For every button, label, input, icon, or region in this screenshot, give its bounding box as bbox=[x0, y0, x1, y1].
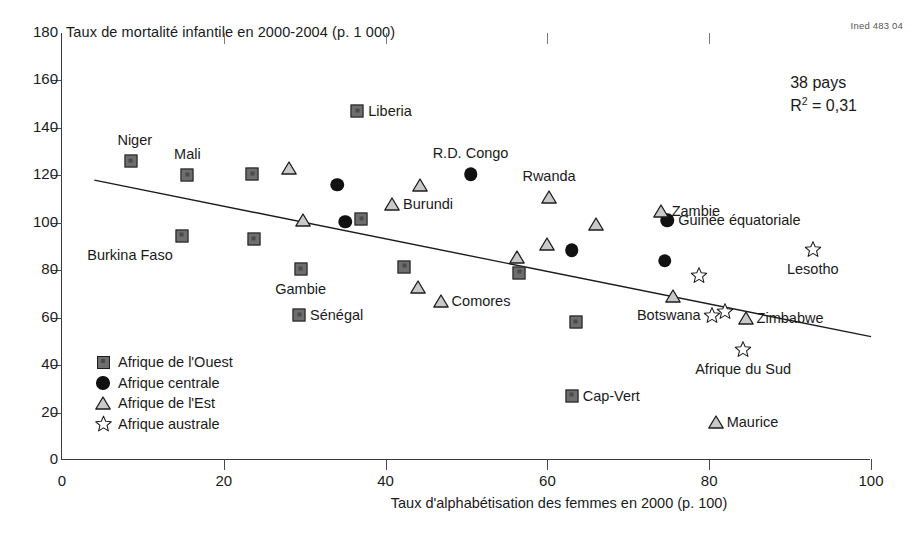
star-marker bbox=[735, 340, 752, 357]
triangle-marker bbox=[384, 197, 400, 211]
triangle-marker bbox=[738, 311, 754, 325]
x-axis-title: Taux d'alphabétisation des femmes en 200… bbox=[0, 495, 913, 511]
y-tick-label: 40 bbox=[41, 355, 58, 372]
circle-marker bbox=[96, 376, 110, 390]
point-label: Rwanda bbox=[522, 168, 575, 184]
source-credit: Ined 483 04 bbox=[851, 20, 903, 31]
circle-marker bbox=[464, 167, 478, 181]
legend-label: Afrique de l'Ouest bbox=[118, 352, 233, 373]
square-marker bbox=[247, 233, 260, 246]
y-tick-label: 120 bbox=[33, 165, 58, 182]
x-tick-label: 40 bbox=[377, 472, 394, 489]
legend-label: Afrique australe bbox=[118, 414, 220, 435]
circle-marker bbox=[92, 376, 114, 390]
square-marker bbox=[293, 309, 306, 322]
x-tick-label: 80 bbox=[701, 472, 718, 489]
circle-marker bbox=[658, 254, 672, 268]
point-label: Maurice bbox=[727, 414, 779, 430]
point-label: R.D. Congo bbox=[433, 145, 509, 161]
x-tick-label: 60 bbox=[539, 472, 556, 489]
y-tick-label: 100 bbox=[33, 213, 58, 230]
chart-legend: Afrique de l'OuestAfrique centraleAfriqu… bbox=[92, 352, 233, 434]
triangle-marker bbox=[92, 396, 114, 410]
point-label: Gambie bbox=[275, 281, 326, 297]
triangle-marker bbox=[412, 178, 428, 192]
x-tick-mark bbox=[224, 459, 225, 470]
x-tick-label: 100 bbox=[858, 472, 883, 489]
point-label: Cap-Vert bbox=[583, 388, 640, 404]
triangle-marker bbox=[588, 217, 604, 231]
y-tick-label: 140 bbox=[33, 118, 58, 135]
triangle-marker bbox=[539, 237, 555, 251]
legend-item[interactable]: Afrique australe bbox=[92, 414, 233, 435]
point-label: Niger bbox=[117, 132, 152, 148]
square-marker bbox=[97, 356, 110, 369]
y-tick-label: 20 bbox=[41, 403, 58, 420]
chart-figure: Taux de mortalité infantile en 2000-2004… bbox=[0, 0, 913, 534]
point-label: Botswana bbox=[637, 307, 701, 323]
star-marker bbox=[804, 240, 821, 257]
legend-item[interactable]: Afrique de l'Est bbox=[92, 393, 233, 414]
x-tick-mark bbox=[386, 459, 387, 470]
square-marker bbox=[398, 260, 411, 273]
point-label: Lesotho bbox=[787, 261, 839, 277]
x-tick-mark bbox=[871, 459, 872, 470]
circle-marker bbox=[338, 215, 352, 229]
point-label: Burkina Faso bbox=[87, 247, 172, 263]
point-label: Mali bbox=[174, 146, 201, 162]
point-label: Liberia bbox=[368, 103, 412, 119]
legend-label: Afrique de l'Est bbox=[118, 393, 215, 414]
triangle-marker bbox=[509, 250, 525, 264]
y-tick-label: 80 bbox=[41, 260, 58, 277]
point-label: Burundi bbox=[403, 196, 453, 212]
triangle-marker bbox=[295, 213, 311, 227]
star-marker bbox=[716, 302, 733, 319]
triangle-marker bbox=[281, 161, 297, 175]
square-marker bbox=[513, 266, 526, 279]
square-marker bbox=[181, 169, 194, 182]
star-marker bbox=[691, 266, 708, 283]
triangle-marker bbox=[541, 190, 557, 204]
triangle-marker bbox=[653, 204, 669, 218]
square-marker bbox=[124, 155, 137, 168]
x-tick-mark bbox=[709, 459, 710, 470]
square-marker bbox=[351, 105, 364, 118]
legend-label: Afrique centrale bbox=[118, 373, 220, 394]
square-marker bbox=[565, 389, 578, 402]
x-tick-label: 0 bbox=[58, 472, 66, 489]
square-marker bbox=[92, 356, 114, 369]
point-label: Comores bbox=[452, 293, 511, 309]
triangle-marker bbox=[410, 280, 426, 294]
x-tick-label: 20 bbox=[215, 472, 232, 489]
square-marker bbox=[246, 168, 259, 181]
circle-marker bbox=[565, 243, 579, 257]
triangle-marker bbox=[433, 294, 449, 308]
point-label: Zambie bbox=[672, 203, 720, 219]
y-tick-label: 160 bbox=[33, 70, 58, 87]
circle-marker bbox=[330, 178, 344, 192]
square-marker bbox=[355, 213, 368, 226]
star-marker bbox=[92, 415, 114, 432]
triangle-marker bbox=[708, 415, 724, 429]
x-tick-mark bbox=[62, 459, 63, 470]
legend-item[interactable]: Afrique centrale bbox=[92, 373, 233, 394]
square-marker bbox=[294, 263, 307, 276]
y-tick-label: 60 bbox=[41, 308, 58, 325]
triangle-marker bbox=[665, 289, 681, 303]
square-marker bbox=[569, 316, 582, 329]
point-label: Zimbabwe bbox=[757, 310, 824, 326]
y-tick-label: 180 bbox=[33, 23, 58, 40]
point-label: Afrique du Sud bbox=[695, 361, 791, 377]
y-tick-label: 0 bbox=[50, 450, 58, 467]
point-label: Sénégal bbox=[310, 307, 363, 323]
square-marker bbox=[175, 229, 188, 242]
legend-item[interactable]: Afrique de l'Ouest bbox=[92, 352, 233, 373]
x-tick-mark bbox=[547, 459, 548, 470]
